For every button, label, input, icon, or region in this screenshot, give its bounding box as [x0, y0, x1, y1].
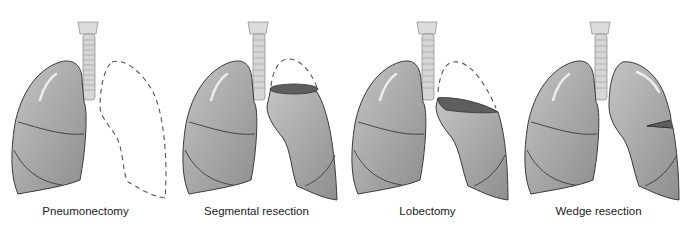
right-lung-icon	[183, 61, 257, 194]
caption-segmental-resection: Segmental resection	[171, 205, 342, 217]
left-lung-icon	[267, 87, 337, 200]
right-lung-icon	[352, 61, 426, 194]
left-lung-icon	[436, 98, 508, 200]
caption-lobectomy: Lobectomy	[342, 205, 513, 217]
caption-wedge-resection: Wedge resection	[513, 205, 684, 217]
panel-segmental-resection: Segmental resection	[171, 0, 342, 228]
caption-pneumonectomy: Pneumonectomy	[0, 205, 171, 217]
removed-lung-outline	[100, 61, 166, 198]
wedge-resection-diagram	[513, 0, 685, 210]
lobectomy-diagram	[342, 0, 513, 210]
resection-surface	[270, 84, 318, 94]
segmental-resection-diagram	[171, 0, 342, 210]
right-lung-icon	[12, 61, 86, 194]
panel-lobectomy: Lobectomy	[342, 0, 513, 228]
panel-pneumonectomy: Pneumonectomy	[0, 0, 171, 228]
right-lung-icon	[525, 61, 599, 194]
panel-wedge-resection: Wedge resection	[513, 0, 684, 228]
left-lung-icon	[609, 62, 679, 200]
pneumonectomy-diagram	[0, 0, 171, 210]
